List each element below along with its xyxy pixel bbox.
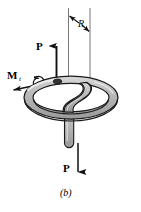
bottom-force-label: P: [63, 163, 70, 174]
spring-coil-figure: R P M t: [0, 0, 141, 212]
bottom-force-layer: [0, 0, 141, 212]
figure-caption: (b): [60, 188, 72, 198]
